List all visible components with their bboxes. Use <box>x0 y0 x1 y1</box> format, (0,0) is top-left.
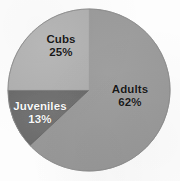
pie-chart-canvas <box>0 0 180 181</box>
pie-slice-cubs[interactable] <box>8 9 89 90</box>
pie-chart-figure: Adults 62% Cubs 25% Juveniles 13% <box>0 0 180 181</box>
